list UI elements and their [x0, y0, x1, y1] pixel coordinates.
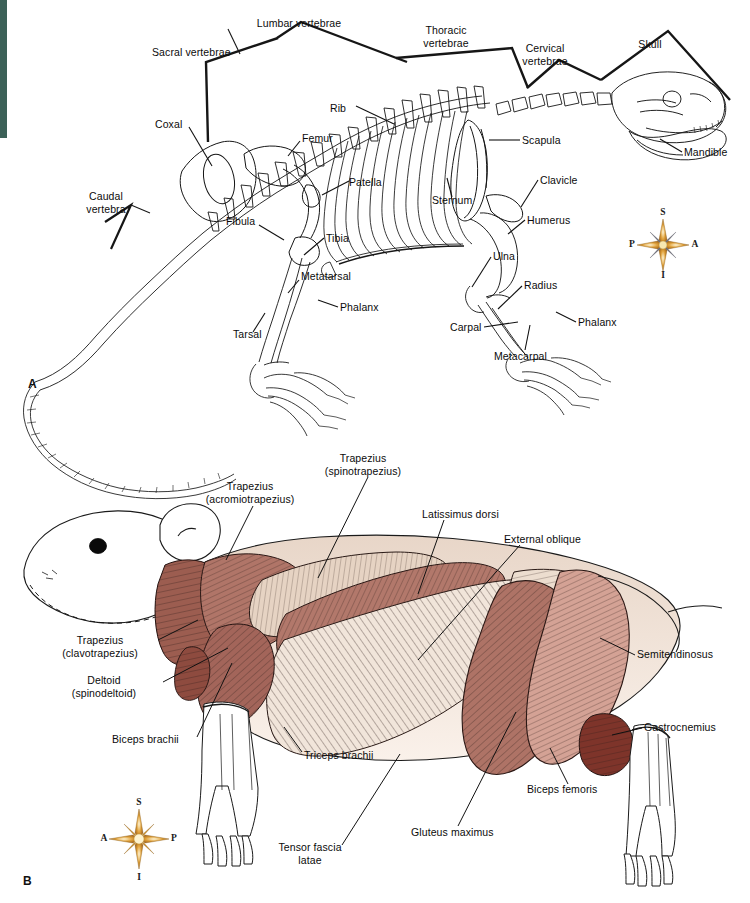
label-caudal-vertebra: Caudal vertebra [73, 190, 139, 215]
label-triceps-brachii: Triceps brachii [304, 749, 373, 762]
label-humerus: Humerus [527, 214, 570, 227]
compass-b-inferior: I [129, 872, 149, 882]
label-clavicle: Clavicle [540, 174, 578, 187]
compass-star-b [109, 809, 169, 869]
panel-letter-a: A [28, 377, 37, 391]
compass-a-posterior: P [624, 239, 640, 249]
label-tensor-fascia-latae: Tensor fascia latae [262, 841, 358, 866]
label-gluteus-maximus: Gluteus maximus [411, 826, 494, 839]
label-femur: Femur [302, 132, 333, 145]
label-lumbar-vertebrae: Lumbar vertebrae [239, 17, 359, 30]
label-biceps-femoris: Biceps femoris [527, 783, 597, 796]
label-deltoid-spinodeltoid: Deltoid (spinodeltoid) [43, 674, 165, 699]
hind-limb [624, 724, 675, 886]
label-metatarsal: Metatarsal [301, 270, 351, 283]
label-trapezius-spinotrapezius: Trapezius (spinotrapezius) [303, 452, 423, 477]
ear [160, 504, 220, 561]
label-skull: Skull [625, 38, 675, 51]
knee-joint [289, 237, 319, 266]
fore-limb [196, 702, 258, 866]
label-sternum: Sternum [432, 194, 472, 207]
label-carpal: Carpal [450, 321, 482, 334]
label-cervical-vertebrae: Cervical vertebrae [505, 42, 585, 67]
panel-letter-b: B [23, 874, 32, 888]
label-sacral-vertebrae: Sacral vertebrae [152, 46, 231, 59]
compass-b-anterior: A [96, 833, 112, 843]
patella-bone [302, 185, 320, 207]
compass-a-anterior: A [687, 239, 703, 249]
label-external-oblique: External oblique [504, 533, 581, 546]
compass-rose-a [637, 219, 689, 271]
eye [90, 539, 107, 554]
label-metacarpal: Metacarpal [494, 350, 547, 363]
figure-page: Lumbar vertebrae Thoracic vertebrae Cerv… [0, 0, 750, 903]
label-fibula: Fibula [226, 215, 255, 228]
compass-a-inferior: I [653, 270, 673, 280]
label-thoracic-vertebrae: Thoracic vertebrae [406, 24, 486, 49]
compass-star-a [637, 219, 689, 271]
label-mandible: Mandible [684, 146, 727, 159]
compass-a-superior: S [653, 207, 673, 217]
femur-bone [244, 146, 320, 238]
label-gastrocnemius: Gastrocnemius [644, 721, 716, 734]
compass-b-superior: S [129, 797, 149, 807]
compass-rose-b [109, 809, 169, 869]
label-patella: Patella [349, 176, 382, 189]
label-biceps-brachii: Biceps brachii [112, 733, 179, 746]
label-rib: Rib [330, 102, 346, 115]
compass-b-posterior: P [166, 833, 182, 843]
label-phalanx-hind: Phalanx [340, 301, 379, 314]
label-ulna: Ulna [493, 250, 515, 263]
label-trapezius-acromiotrapezius: Trapezius (acromiotrapezius) [182, 480, 318, 505]
label-phalanx-fore: Phalanx [578, 316, 617, 329]
label-coxal: Coxal [155, 118, 182, 131]
hind-foot [250, 364, 355, 436]
label-scapula: Scapula [522, 134, 561, 147]
label-radius: Radius [524, 279, 557, 292]
label-tarsal: Tarsal [233, 328, 262, 341]
label-latissimus-dorsi: Latissimus dorsi [422, 508, 499, 521]
label-trapezius-clavotrapezius: Trapezius (clavotrapezius) [32, 634, 168, 659]
clavicle-bone [486, 195, 523, 222]
label-tibia: Tibia [326, 232, 349, 245]
label-semitendinosus: Semitendinosus [637, 648, 713, 661]
skeleton-drawing [23, 22, 730, 499]
fore-foot [506, 355, 611, 415]
